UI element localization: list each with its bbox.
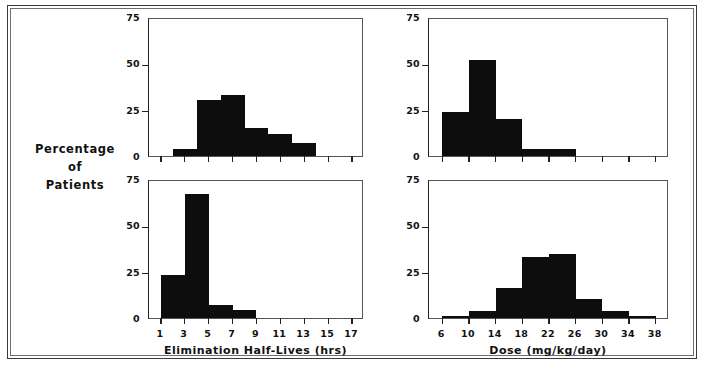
y-axis-tick-label: 25 bbox=[114, 105, 140, 116]
x-axis-tick-label: 6 bbox=[427, 328, 455, 339]
histogram-bar bbox=[197, 100, 221, 156]
x-axis-tick bbox=[522, 318, 523, 324]
histogram-bar bbox=[602, 311, 629, 318]
histogram-bar bbox=[233, 310, 257, 318]
histogram-bar bbox=[522, 149, 575, 156]
plot-area bbox=[428, 180, 668, 319]
histogram-bar bbox=[496, 119, 523, 156]
x-axis-tick bbox=[522, 156, 523, 162]
x-axis-tick bbox=[442, 156, 443, 162]
x-axis-tick bbox=[575, 318, 576, 324]
histogram-bar bbox=[469, 60, 496, 156]
y-axis-tick bbox=[422, 227, 429, 228]
bar-series bbox=[429, 19, 667, 156]
x-axis-tick bbox=[628, 156, 629, 162]
x-axis-tick bbox=[256, 156, 257, 162]
x-axis-tick bbox=[655, 156, 656, 162]
histogram-bar bbox=[245, 128, 269, 156]
x-axis-tick bbox=[468, 318, 469, 324]
y-axis-tick-label: 50 bbox=[394, 220, 420, 231]
x-axis-tick bbox=[602, 156, 603, 162]
y-axis-tick-label: 0 bbox=[394, 151, 420, 162]
y-axis-tick-label: 75 bbox=[114, 174, 140, 185]
y-axis-supertitle: Percentage of Patients bbox=[14, 140, 136, 194]
x-axis-tick bbox=[655, 318, 656, 324]
plot-area bbox=[148, 18, 363, 157]
x-axis-tick-label: 10 bbox=[454, 328, 482, 339]
histogram-bar bbox=[576, 299, 603, 318]
x-axis-tick-label: 22 bbox=[534, 328, 562, 339]
y-axis-tick-label: 25 bbox=[394, 267, 420, 278]
y-axis-tick-label: 50 bbox=[114, 58, 140, 69]
x-axis-tick-label: 26 bbox=[561, 328, 589, 339]
x-axis-tick bbox=[208, 156, 209, 162]
y-axis-tick bbox=[422, 111, 429, 112]
histogram-bar bbox=[268, 134, 292, 156]
y-axis-tick-label: 0 bbox=[394, 313, 420, 324]
x-axis-tick bbox=[256, 318, 257, 324]
x-axis-title: Dose (mg/kg/day) bbox=[428, 344, 668, 357]
x-axis-tick bbox=[575, 156, 576, 162]
y-axis-tick bbox=[422, 65, 429, 66]
histogram-bar bbox=[549, 254, 576, 318]
x-axis-tick bbox=[160, 318, 161, 324]
y-axis-tick bbox=[142, 111, 149, 112]
bar-series bbox=[149, 19, 362, 156]
histogram-bar bbox=[185, 194, 209, 318]
x-axis-tick-label: 38 bbox=[641, 328, 669, 339]
x-axis-tick-label: 18 bbox=[507, 328, 535, 339]
y-axis-tick-label: 25 bbox=[394, 105, 420, 116]
y-axis-tick-label: 50 bbox=[114, 220, 140, 231]
x-axis-tick-label: 17 bbox=[337, 328, 365, 339]
x-axis-tick bbox=[351, 156, 352, 162]
y-axis-tick bbox=[142, 273, 149, 274]
x-axis-tick bbox=[495, 318, 496, 324]
y-axis-tick-label: 50 bbox=[394, 58, 420, 69]
x-axis-tick bbox=[548, 318, 549, 324]
plot-area bbox=[428, 18, 668, 157]
x-axis-tick-label: 14 bbox=[481, 328, 509, 339]
y-axis-tick-label: 25 bbox=[114, 267, 140, 278]
histogram-bar bbox=[209, 305, 233, 318]
x-axis-tick bbox=[184, 156, 185, 162]
x-axis-tick bbox=[184, 318, 185, 324]
x-axis-tick bbox=[232, 156, 233, 162]
figure-canvas: Percentage of Patients 0255075 0255075 0… bbox=[0, 0, 703, 365]
x-axis-tick bbox=[602, 318, 603, 324]
x-axis-tick bbox=[328, 156, 329, 162]
histogram-bar bbox=[221, 95, 245, 156]
x-axis-tick bbox=[328, 318, 329, 324]
x-axis-tick bbox=[351, 318, 352, 324]
y-axis-tick-label: 75 bbox=[394, 174, 420, 185]
x-axis-tick bbox=[280, 156, 281, 162]
y-axis-tick bbox=[142, 227, 149, 228]
x-axis-tick bbox=[468, 156, 469, 162]
y-axis-tick-label: 75 bbox=[114, 12, 140, 23]
x-axis-title: Elimination Half-Lives (hrs) bbox=[148, 344, 363, 357]
x-axis-tick bbox=[304, 318, 305, 324]
histogram-bar bbox=[161, 275, 185, 318]
histogram-bar bbox=[522, 257, 549, 318]
x-axis-tick bbox=[208, 318, 209, 324]
x-axis-tick-label: 34 bbox=[614, 328, 642, 339]
plot-area bbox=[148, 180, 363, 319]
histogram-bar bbox=[629, 316, 656, 318]
y-axis-tick bbox=[422, 273, 429, 274]
y-axis-tick-label: 75 bbox=[394, 12, 420, 23]
y-axis-tick bbox=[142, 65, 149, 66]
x-axis-tick bbox=[548, 156, 549, 162]
bar-series bbox=[149, 181, 362, 318]
histogram-bar bbox=[442, 316, 469, 318]
histogram-bar bbox=[469, 311, 496, 318]
histogram-bar bbox=[496, 288, 523, 318]
y-axis-tick-label: 0 bbox=[114, 313, 140, 324]
y-axis-tick-label: 0 bbox=[114, 151, 140, 162]
x-axis-tick bbox=[495, 156, 496, 162]
bar-series bbox=[429, 181, 667, 318]
histogram-bar bbox=[442, 112, 469, 156]
x-axis-tick bbox=[160, 156, 161, 162]
x-axis-tick bbox=[232, 318, 233, 324]
histogram-bar bbox=[173, 149, 197, 156]
x-axis-tick bbox=[442, 318, 443, 324]
histogram-bar bbox=[292, 143, 316, 156]
